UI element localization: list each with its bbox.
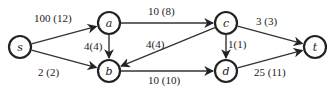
node-label: a bbox=[106, 17, 113, 30]
node-b: b bbox=[98, 60, 120, 82]
node-label: c bbox=[223, 17, 229, 30]
edge-label-s-a: 100 (12) bbox=[34, 12, 72, 25]
flow-network-diagram: 100 (12)2 (2)4(4)10 (8)4(4)10 (10)1(1)3 … bbox=[0, 0, 335, 95]
edge-label-b-d: 10 (10) bbox=[148, 74, 180, 87]
node-label: s bbox=[17, 41, 23, 54]
edge-c-t bbox=[238, 26, 303, 43]
edges-group bbox=[32, 23, 303, 71]
edge-label-c-d: 1(1) bbox=[228, 38, 247, 51]
edge-label-c-b: 4(4) bbox=[146, 38, 165, 51]
node-s: s bbox=[9, 36, 31, 58]
edge-s-b bbox=[32, 50, 97, 67]
edge-label-c-t: 3 (3) bbox=[256, 15, 277, 28]
node-t: t bbox=[304, 36, 326, 58]
edge-label-d-t: 25 (11) bbox=[254, 66, 286, 79]
node-d: d bbox=[215, 60, 237, 82]
edge-label-a-c: 10 (8) bbox=[148, 5, 175, 18]
node-c: c bbox=[215, 12, 237, 34]
node-label: b bbox=[105, 65, 112, 78]
node-label: d bbox=[222, 65, 229, 78]
edge-label-s-b: 2 (2) bbox=[38, 66, 59, 79]
node-a: a bbox=[98, 12, 120, 34]
edge-labels-group: 100 (12)2 (2)4(4)10 (8)4(4)10 (10)1(1)3 … bbox=[34, 5, 286, 87]
edge-c-b bbox=[121, 28, 215, 67]
node-label: t bbox=[313, 41, 318, 54]
edge-label-a-b: 4(4) bbox=[84, 40, 103, 53]
